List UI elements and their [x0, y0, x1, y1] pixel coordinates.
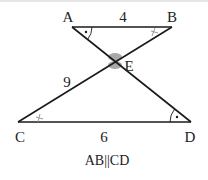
- segment-ad: [72, 27, 191, 122]
- angle-a-arc-icon: [88, 27, 92, 40]
- angle-a-dot-icon: [85, 31, 87, 33]
- geometry-diagram: A B E C D 4 9 6 AB||CD: [0, 0, 208, 180]
- angle-b-tick-icon: [151, 28, 158, 36]
- angle-c-tick-icon: [36, 114, 43, 122]
- caption-parallel: AB||CD: [85, 153, 130, 168]
- angle-d-arc-icon: [170, 109, 175, 122]
- point-label-a: A: [63, 9, 74, 25]
- point-label-e: E: [124, 58, 133, 74]
- segment-bc: [18, 27, 172, 122]
- point-label-d: D: [185, 129, 196, 145]
- point-label-c: C: [15, 129, 25, 145]
- angle-d-dot-icon: [176, 116, 178, 118]
- length-label-ce: 9: [63, 74, 71, 90]
- length-label-ab: 4: [119, 9, 127, 25]
- length-label-cd: 6: [100, 129, 108, 145]
- point-label-b: B: [167, 9, 177, 25]
